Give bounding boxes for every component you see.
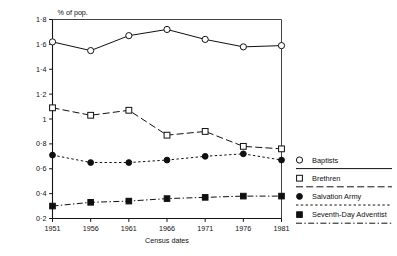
data-point-marker [126, 33, 132, 39]
data-point-marker [278, 43, 284, 49]
x-tick-label: 1961 [121, 224, 137, 233]
x-tick-label: 1976 [235, 224, 251, 233]
series-line [53, 108, 282, 149]
legend-marker-icon [296, 157, 302, 163]
y-tick-label: 1·8 [36, 15, 46, 24]
data-point-marker [50, 152, 56, 158]
data-point-marker [279, 193, 285, 199]
y-tick-label: 0·8 [36, 139, 46, 148]
y-tick-label: 0·4 [36, 189, 46, 198]
data-point-marker [202, 195, 208, 201]
chart-figure: 0·20·40·60·811·21·41·61·8195119561961196… [0, 0, 397, 256]
data-point-marker [240, 143, 246, 149]
data-point-marker [126, 160, 132, 166]
x-tick-label: 1951 [45, 224, 61, 233]
legend-label: Salvation Army [312, 192, 362, 201]
data-point-marker [50, 105, 56, 111]
legend-label: Seventh-Day Adventist [312, 210, 387, 219]
legend-marker-icon [297, 194, 303, 200]
data-point-marker [240, 151, 246, 157]
data-point-marker [50, 203, 56, 209]
legend-label: Baptists [312, 156, 339, 165]
data-point-marker [88, 112, 94, 118]
data-point-marker [241, 193, 247, 199]
data-point-marker [202, 129, 208, 135]
x-tick-label: 1966 [159, 224, 175, 233]
legend-item-seventh-day-adventist[interactable]: Seventh-Day Adventist [296, 210, 392, 223]
data-point-marker [240, 44, 246, 50]
y-tick-label: 0·6 [36, 164, 46, 173]
data-point-marker [88, 47, 94, 53]
x-tick-label: 1981 [274, 224, 290, 233]
series-salvation-army [50, 151, 285, 166]
series-baptists [49, 26, 284, 53]
data-point-marker [88, 160, 94, 166]
y-tick-label: 1·6 [36, 40, 46, 49]
x-axis-title: Census dates [145, 236, 189, 245]
data-point-marker [88, 200, 94, 206]
y-tick-label: 1·2 [36, 90, 46, 99]
legend-item-salvation-army[interactable]: Salvation Army [296, 192, 392, 205]
data-point-marker [164, 132, 170, 138]
legend-item-baptists[interactable]: Baptists [296, 156, 392, 169]
series-brethren [50, 105, 285, 152]
data-point-marker [126, 198, 132, 204]
line-chart-svg: 0·20·40·60·811·21·41·61·8195119561961196… [0, 0, 397, 256]
data-point-marker [164, 196, 170, 202]
y-axis-unit-label: % of pop. [58, 8, 88, 17]
data-point-marker [202, 36, 208, 42]
legend-marker-icon [297, 212, 303, 218]
data-point-marker [164, 26, 170, 32]
data-point-marker [279, 146, 285, 152]
data-point-marker [164, 157, 170, 163]
legend-item-brethren[interactable]: Brethren [296, 174, 392, 187]
y-tick-label: 0·2 [36, 214, 46, 223]
y-tick-label: 1 [43, 115, 47, 124]
data-point-marker [49, 39, 55, 45]
x-tick-label: 1971 [197, 224, 213, 233]
y-tick-label: 1·4 [36, 65, 46, 74]
legend-marker-icon [297, 175, 303, 181]
x-tick-label: 1956 [83, 224, 99, 233]
legend-label: Brethren [312, 174, 340, 183]
data-point-marker [126, 107, 132, 113]
data-point-marker [202, 153, 208, 159]
data-point-marker [279, 157, 285, 163]
series-seventh-day-adventist [50, 193, 285, 209]
legend: BaptistsBrethrenSalvation ArmySeventh-Da… [296, 156, 392, 224]
x-axis: 1951195619611966197119761981Census dates [45, 219, 290, 245]
y-axis: 0·20·40·60·811·21·41·61·8 [36, 15, 52, 223]
